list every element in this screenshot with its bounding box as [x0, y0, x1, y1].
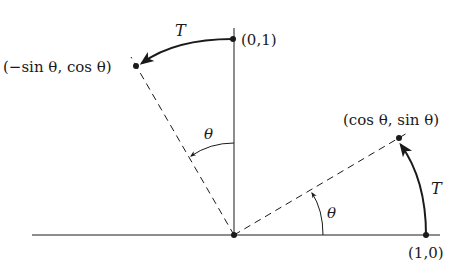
point-te2-dot [133, 63, 139, 69]
label-e1: (1,0) [408, 244, 444, 262]
rotated-y-dashed-line [131, 57, 234, 235]
label-t-right: T [431, 179, 443, 198]
point-te1-dot [396, 135, 402, 141]
point-e2-dot [230, 36, 236, 42]
theta-arc-lower [312, 193, 323, 235]
point-e1-dot [423, 232, 429, 238]
origin-dot [231, 232, 237, 238]
t-arrow-right [401, 145, 426, 235]
label-te2: (−sin θ, cos θ) [3, 58, 112, 76]
rotation-diagram: (0,1) (−sin θ, cos θ) (cos θ, sin θ) (1,… [0, 0, 458, 278]
theta-arc-upper [191, 143, 234, 156]
t-arrow-top [142, 39, 233, 63]
diagram-svg: (0,1) (−sin θ, cos θ) (cos θ, sin θ) (1,… [0, 0, 458, 278]
label-te1: (cos θ, sin θ) [343, 111, 439, 129]
label-t-top: T [175, 21, 187, 40]
label-e2: (0,1) [241, 31, 277, 49]
label-theta-lower: θ [327, 204, 336, 222]
label-theta-upper: θ [204, 125, 213, 143]
